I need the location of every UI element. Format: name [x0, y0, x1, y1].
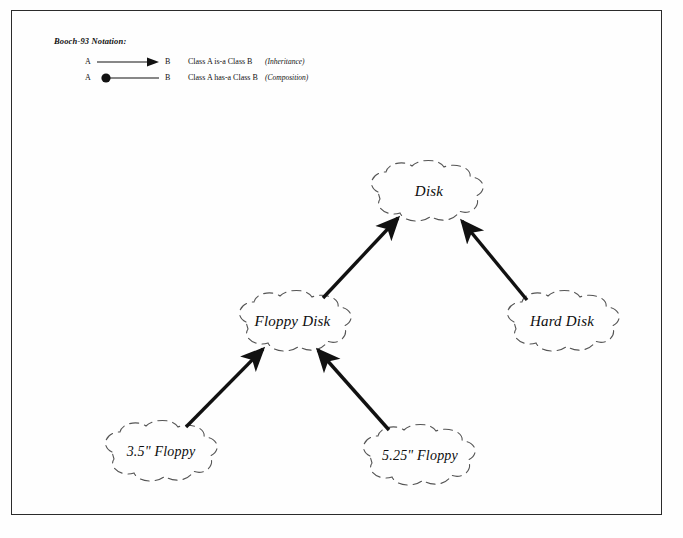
edge-floppy-disk-to-disk [323, 218, 398, 298]
edge-hard-disk-to-disk [462, 221, 527, 300]
node-label-hard-disk: Hard Disk [503, 313, 621, 330]
node-label-floppy-disk: Floppy Disk [235, 313, 350, 330]
node-label-floppy-525: 5.25" Floppy [359, 448, 481, 464]
edge-floppy-35-to-floppy-disk [186, 349, 263, 427]
node-label-floppy-35: 3.5" Floppy [101, 444, 221, 460]
node-label-disk: Disk [370, 183, 488, 200]
edge-floppy-525-to-floppy-disk [318, 350, 389, 430]
diagram-page: Booch-93 Notation: A B Class A is-a Clas… [0, 0, 683, 538]
